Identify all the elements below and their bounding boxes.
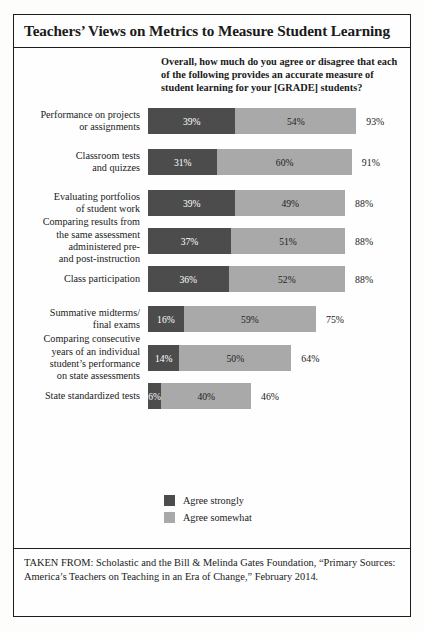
row-label-line: State standardized tests — [14, 390, 140, 402]
bar-segment-agree-somewhat: 50% — [179, 345, 291, 371]
chart-row: Comparing results fromthe same assessmen… — [14, 228, 410, 254]
row-label: State standardized tests — [14, 390, 148, 402]
stacked-bar-chart: Performance on projectsor assignments39%… — [14, 108, 410, 409]
legend-item: Agree strongly — [164, 495, 252, 506]
row-label-line: Comparing consecutive — [14, 333, 140, 345]
row-label-line: on state assessments — [14, 370, 140, 382]
legend-label: Agree somewhat — [183, 512, 252, 523]
row-label-line: student’s performance — [14, 358, 140, 370]
row-bar-area: 16%59%75% — [148, 306, 410, 332]
row-label: Classroom testsand quizzes — [14, 150, 148, 175]
figure-page: Teachers’ Views on Metrics to Measure St… — [0, 0, 424, 632]
row-label-line: or assignments — [14, 121, 140, 133]
legend-item: Agree somewhat — [164, 512, 252, 523]
stacked-bar: 14%50% — [148, 345, 291, 371]
bar-total-label: 75% — [326, 306, 344, 332]
bar-segment-agree-somewhat: 60% — [217, 149, 351, 175]
row-label-line: Classroom tests — [14, 150, 140, 162]
row-bar-area: 14%50%64% — [148, 345, 410, 371]
row-label-line: Performance on projects — [14, 109, 140, 121]
chart-row: Comparing consecutiveyears of an individ… — [14, 345, 410, 371]
bar-segment-agree-somewhat: 51% — [231, 228, 345, 254]
chart-row: Class participation36%52%88% — [14, 266, 410, 292]
row-label-line: Class participation — [14, 273, 140, 285]
chart-row: Classroom testsand quizzes31%60%91% — [14, 149, 410, 175]
bar-total-label: 91% — [362, 149, 380, 175]
chart-row: Performance on projectsor assignments39%… — [14, 108, 410, 134]
row-bar-area: 31%60%91% — [148, 149, 410, 175]
figure-frame: Teachers’ Views on Metrics to Measure St… — [13, 14, 411, 617]
row-label: Comparing results fromthe same assessmen… — [14, 216, 148, 266]
stacked-bar: 6%40% — [148, 383, 251, 409]
row-bar-area: 36%52%88% — [148, 266, 410, 292]
bar-segment-agree-somewhat: 59% — [184, 306, 316, 332]
row-bar-area: 37%51%88% — [148, 228, 410, 254]
bar-segment-agree-strongly: 31% — [148, 149, 217, 175]
stacked-bar: 39%49% — [148, 190, 345, 216]
bar-segment-agree-strongly: 6% — [148, 383, 161, 409]
bar-total-label: 88% — [355, 228, 373, 254]
row-label-line: Evaluating portfolios — [14, 191, 140, 203]
bar-segment-agree-strongly: 39% — [148, 190, 235, 216]
legend-swatch-strong — [164, 495, 175, 506]
chart-question: Overall, how much do you agree or disagr… — [161, 55, 401, 95]
row-label: Performance on projectsor assignments — [14, 109, 148, 134]
row-label-line: the same assessment — [14, 229, 140, 241]
bar-segment-agree-strongly: 37% — [148, 228, 231, 254]
legend-label: Agree strongly — [183, 495, 244, 506]
stacked-bar: 16%59% — [148, 306, 316, 332]
row-label-line: Summative midterms/ — [14, 307, 140, 319]
bar-segment-agree-strongly: 14% — [148, 345, 179, 371]
row-label: Evaluating portfoliosof student work — [14, 191, 148, 216]
bar-total-label: 88% — [355, 190, 373, 216]
title-bar: Teachers’ Views on Metrics to Measure St… — [14, 15, 410, 48]
bar-segment-agree-strongly: 39% — [148, 108, 235, 134]
row-label-line: years of an individual — [14, 346, 140, 358]
stacked-bar: 37%51% — [148, 228, 345, 254]
legend-swatch-somewhat — [164, 512, 175, 523]
bar-segment-agree-somewhat: 54% — [235, 108, 356, 134]
bar-segment-agree-strongly: 16% — [148, 306, 184, 332]
bar-total-label: 64% — [301, 345, 319, 371]
row-bar-area: 6%40%46% — [148, 383, 410, 409]
chart-row: State standardized tests6%40%46% — [14, 383, 410, 409]
row-label-line: and post-instruction — [14, 253, 140, 265]
row-label-line: final exams — [14, 319, 140, 331]
source-note: TAKEN FROM: Scholastic and the Bill & Me… — [24, 556, 402, 585]
bar-total-label: 93% — [366, 108, 384, 134]
stacked-bar: 36%52% — [148, 266, 345, 292]
bar-total-label: 46% — [261, 383, 279, 409]
row-bar-area: 39%54%93% — [148, 108, 410, 134]
stacked-bar: 39%54% — [148, 108, 356, 134]
row-label-line: administered pre- — [14, 241, 140, 253]
chart-row: Summative midterms/final exams16%59%75% — [14, 306, 410, 332]
bar-segment-agree-somewhat: 52% — [229, 266, 345, 292]
chart-legend: Agree stronglyAgree somewhat — [164, 495, 252, 529]
source-divider — [14, 548, 410, 549]
row-label: Class participation — [14, 273, 148, 285]
row-bar-area: 39%49%88% — [148, 190, 410, 216]
row-label: Comparing consecutiveyears of an individ… — [14, 333, 148, 383]
row-label: Summative midterms/final exams — [14, 307, 148, 332]
bar-segment-agree-strongly: 36% — [148, 266, 229, 292]
row-label-line: Comparing results from — [14, 216, 140, 228]
bar-segment-agree-somewhat: 49% — [235, 190, 345, 216]
row-label-line: of student work — [14, 203, 140, 215]
bar-total-label: 88% — [355, 266, 373, 292]
chart-row: Evaluating portfoliosof student work39%4… — [14, 190, 410, 216]
stacked-bar: 31%60% — [148, 149, 352, 175]
page-title: Teachers’ Views on Metrics to Measure St… — [14, 22, 390, 40]
row-label-line: and quizzes — [14, 162, 140, 174]
bar-segment-agree-somewhat: 40% — [161, 383, 251, 409]
